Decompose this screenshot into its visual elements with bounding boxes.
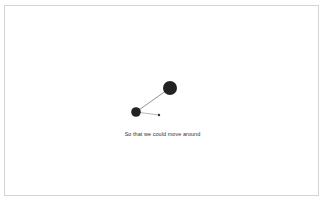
node-large bbox=[163, 81, 177, 95]
node-medium bbox=[131, 107, 141, 117]
network-graph bbox=[0, 0, 325, 203]
node-tiny bbox=[158, 114, 160, 116]
caption-text: So that we could move around bbox=[0, 131, 325, 137]
